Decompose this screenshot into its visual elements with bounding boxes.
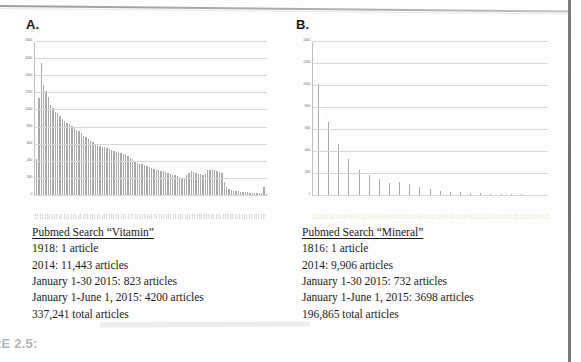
chart-b-gridline [313, 151, 548, 152]
chart-b-x-axis: 2015201420132012201120102009200820072006… [312, 197, 548, 219]
chart-b-gridline [313, 195, 548, 196]
caption-b-line-2: 2014: 9,906 articles [302, 257, 554, 273]
chart-b-y-tick-label: 6000 [305, 129, 310, 132]
chart-a-plot-area [34, 42, 267, 196]
chart-a-gridline [35, 92, 267, 93]
chart-a-y-tick-label: 18000 [25, 41, 32, 44]
chart-a-gridline [35, 127, 267, 128]
chart-a-y-axis: 0200040006000800010000120001400016000180… [12, 42, 34, 196]
page-right-margin [571, 0, 581, 362]
chart-b-gridline [313, 107, 548, 108]
chart-b-gridline [313, 129, 548, 130]
chart-b-gridline [313, 85, 548, 86]
chart-b-y-tick-label: 4000 [305, 151, 310, 154]
caption-b-line-1: 1816: 1 article [302, 240, 554, 256]
chart-b-x-tick-label: 1816 [548, 197, 549, 219]
caption-a-line-2: 2014: 11,443 articles [32, 257, 280, 273]
chart-a-gridline [35, 41, 267, 42]
chart-a: 0200040006000800010000120001400016000180… [12, 42, 267, 220]
chart-a-y-tick-label: 14000 [25, 75, 32, 78]
caption-b: Pubmed Search “Mineral” 1816: 1 article … [302, 224, 554, 322]
chart-b-y-axis: 02000400060008000100001200014000 [290, 42, 312, 196]
chart-b-y-tick-label: 14000 [303, 41, 310, 44]
caption-b-title: Pubmed Search “Mineral” [302, 224, 554, 240]
chart-b-gridline [313, 63, 548, 64]
caption-a-line-4: January 1-June 1, 2015: 4200 articles [32, 289, 280, 305]
chart-a-x-tick-label: 1918 [264, 197, 266, 219]
caption-b-line-3: January 1-30 2015: 732 articles [302, 273, 554, 289]
caption-a-line-5: 337,241 total articles [32, 306, 280, 322]
caption-b-line-5: 196,865 total articles [302, 306, 554, 322]
panel-a-label: A. [26, 17, 39, 32]
chart-b-gridline [313, 41, 548, 42]
chart-a-x-axis: 2015201420132012201120102009200820072006… [34, 197, 267, 219]
chart-a-gridline [35, 195, 267, 196]
scanned-page: A. 0200040006000800010000120001400016000… [0, 0, 581, 362]
caption-b-line-4: January 1-June 1, 2015: 3698 articles [302, 289, 554, 305]
chart-b-y-tick-label: 2000 [305, 173, 310, 176]
chart-a-y-tick-label: 4000 [27, 160, 32, 163]
chart-b-y-tick-label: 8000 [305, 107, 310, 110]
chart-b: 02000400060008000100001200014000 2015201… [290, 42, 548, 220]
chart-a-gridline [35, 109, 267, 110]
caption-a-line-1: 1918: 1 article [32, 240, 280, 256]
chart-a-gridline [35, 144, 267, 145]
figure-number-caption: RE 2.5: [0, 336, 37, 351]
chart-a-bars [35, 42, 267, 195]
chart-a-y-tick-label: 6000 [27, 143, 32, 146]
panel-b-label: B. [296, 17, 309, 32]
chart-b-y-tick-label: 12000 [303, 63, 310, 66]
chart-a-y-tick-label: 8000 [27, 126, 32, 129]
chart-a-gridline [35, 75, 267, 76]
chart-b-gridline [313, 173, 548, 174]
caption-a-title: Pubmed Search “Vitamin” [32, 224, 280, 240]
panel-a: A. 0200040006000800010000120001400016000… [0, 0, 288, 362]
chart-a-y-tick-label: 16000 [25, 58, 32, 61]
chart-b-plot-area [312, 42, 548, 196]
chart-b-y-tick-label: 0 [309, 195, 310, 198]
chart-a-y-tick-label: 12000 [25, 92, 32, 95]
chart-a-y-tick-label: 2000 [27, 178, 32, 181]
chart-b-y-tick-label: 10000 [303, 85, 310, 88]
chart-a-gridline [35, 178, 267, 179]
chart-a-gridline [35, 58, 267, 59]
chart-a-y-tick-label: 0 [31, 195, 32, 198]
caption-a: Pubmed Search “Vitamin” 1918: 1 article … [32, 224, 280, 322]
chart-a-y-tick-label: 10000 [25, 109, 32, 112]
chart-a-gridline [35, 161, 267, 162]
panel-b: B. 02000400060008000100001200014000 2015… [288, 0, 570, 362]
caption-a-line-3: January 1-30 2015: 823 articles [32, 273, 280, 289]
